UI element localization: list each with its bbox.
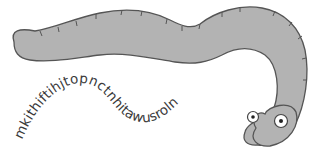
- curved-text-path: mkithiftihjtopnctnhitawusroln: [10, 70, 181, 141]
- right-eye-icon: [275, 115, 288, 128]
- worm-head: [253, 105, 297, 146]
- curved-letter-text: mkithiftihjtopnctnhitawusroln: [10, 70, 181, 141]
- worm-illustration: mkithiftihjtopnctnhitawusroln: [0, 0, 314, 152]
- left-eye-icon: [248, 112, 259, 123]
